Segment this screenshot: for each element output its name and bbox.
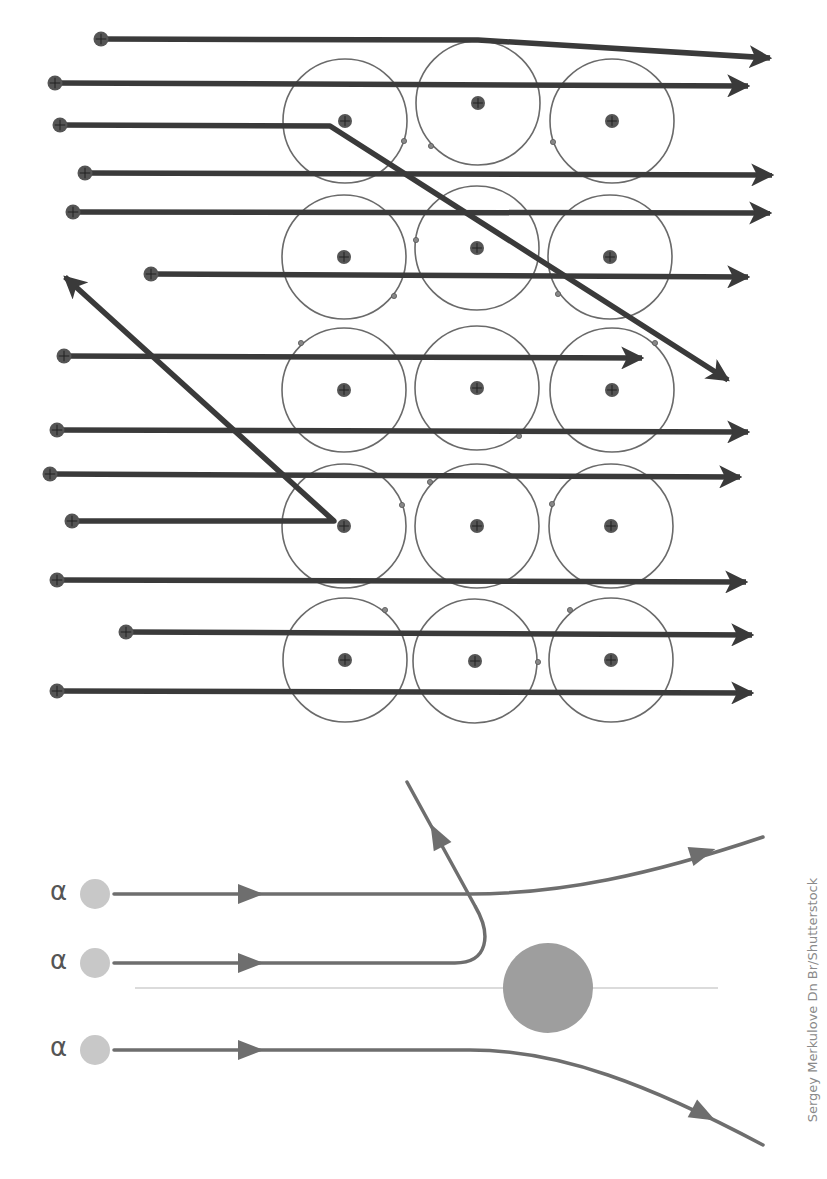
electron-dot	[535, 659, 540, 664]
alpha-particle-plus-icon	[53, 118, 68, 133]
arrow-icon	[60, 125, 728, 380]
alpha-particle-plus-icon	[50, 684, 65, 699]
nucleus-plus-icon	[470, 241, 484, 255]
gold-atom	[413, 599, 537, 723]
alpha-ray	[94, 32, 771, 59]
electron-dot	[549, 501, 554, 506]
electron-dot	[298, 340, 303, 345]
alpha-label: α	[50, 947, 67, 973]
electron-dot	[382, 607, 387, 612]
arrow-icon	[101, 39, 770, 58]
arrow-icon	[151, 274, 748, 277]
alpha-particle-plus-icon	[66, 205, 81, 220]
alpha-particle-plus-icon	[50, 423, 65, 438]
alpha-ray	[119, 625, 753, 640]
gold-atom	[550, 59, 674, 183]
nucleus-plus-icon	[604, 519, 618, 533]
alpha-particle-plus-icon	[43, 467, 58, 482]
alpha-ray	[66, 205, 771, 220]
nucleus-plus-icon	[471, 96, 485, 110]
electron-dot	[555, 291, 560, 296]
nucleus-plus-icon	[470, 519, 484, 533]
direction-arrow-icon	[238, 884, 264, 904]
electron-dot	[652, 340, 657, 345]
gold-atom	[416, 41, 540, 165]
direction-arrow-icon	[422, 819, 452, 851]
nucleus-plus-icon	[337, 519, 351, 533]
nucleus-plus-icon	[603, 250, 617, 264]
electron-dot	[399, 502, 404, 507]
electron-dot	[391, 293, 396, 298]
gold-atom	[283, 598, 407, 722]
direction-arrow-icon	[238, 953, 264, 973]
electron-dot	[516, 433, 521, 438]
trajectory-deflected-down	[114, 1040, 763, 1145]
alpha-rays	[43, 32, 773, 699]
electron-dot	[550, 139, 555, 144]
arrow-icon	[73, 212, 770, 213]
target-nucleus	[503, 943, 593, 1033]
gold-atom	[415, 464, 539, 588]
alpha-particle-plus-icon	[119, 625, 134, 640]
alpha-particle-plus-icon	[65, 514, 80, 529]
arrow-icon	[55, 83, 748, 86]
nucleus-plus-icon	[338, 653, 352, 667]
alpha-particle-plus-icon	[144, 267, 159, 282]
alpha-label: α	[50, 878, 67, 904]
alpha-particle	[80, 1035, 110, 1065]
alpha-particle-plus-icon	[50, 573, 65, 588]
alpha-ray	[50, 573, 747, 588]
nucleus-plus-icon	[604, 653, 618, 667]
arrow-icon	[50, 474, 740, 477]
alpha-ray	[78, 166, 773, 181]
arrow-icon	[126, 632, 752, 635]
alpha-ray	[144, 267, 749, 282]
nucleus-plus-icon	[338, 114, 352, 128]
arrow-icon	[65, 277, 334, 521]
direction-arrow-icon	[238, 1040, 264, 1060]
rutherford-diagram	[0, 0, 827, 1179]
arrow-icon	[85, 173, 772, 175]
nucleus-plus-icon	[605, 114, 619, 128]
arrow-icon	[57, 691, 752, 693]
electron-dot	[401, 138, 406, 143]
alpha-particle-plus-icon	[57, 349, 72, 364]
nucleus-plus-icon	[605, 383, 619, 397]
image-credit: Sergey Merkulove Dn Br/Shutterstock	[805, 878, 820, 1123]
alpha-particle-plus-icon	[78, 166, 93, 181]
alpha-particle	[80, 948, 110, 978]
alpha-ray	[50, 423, 749, 438]
trajectory-back-scattered	[114, 782, 485, 973]
alpha-particle-plus-icon	[94, 32, 109, 47]
arrow-icon	[57, 580, 746, 582]
electron-dot	[413, 237, 418, 242]
alpha-label: α	[50, 1034, 67, 1060]
gold-atom	[549, 598, 673, 722]
nucleus-plus-icon	[337, 383, 351, 397]
alpha-particle-plus-icon	[48, 76, 63, 91]
electron-dot	[427, 479, 432, 484]
alpha-particle	[80, 879, 110, 909]
nucleus-plus-icon	[468, 654, 482, 668]
gold-atoms	[282, 41, 674, 723]
arrow-icon	[57, 430, 748, 432]
gold-atom	[549, 464, 673, 588]
nucleus-plus-icon	[470, 381, 484, 395]
gold-atom	[282, 464, 406, 588]
direction-arrow-icon	[688, 1100, 720, 1130]
electron-dot	[567, 607, 572, 612]
nucleus-plus-icon	[337, 250, 351, 264]
electron-dot	[428, 143, 433, 148]
alpha-ray	[53, 118, 729, 381]
scattering-diagram	[80, 782, 763, 1145]
